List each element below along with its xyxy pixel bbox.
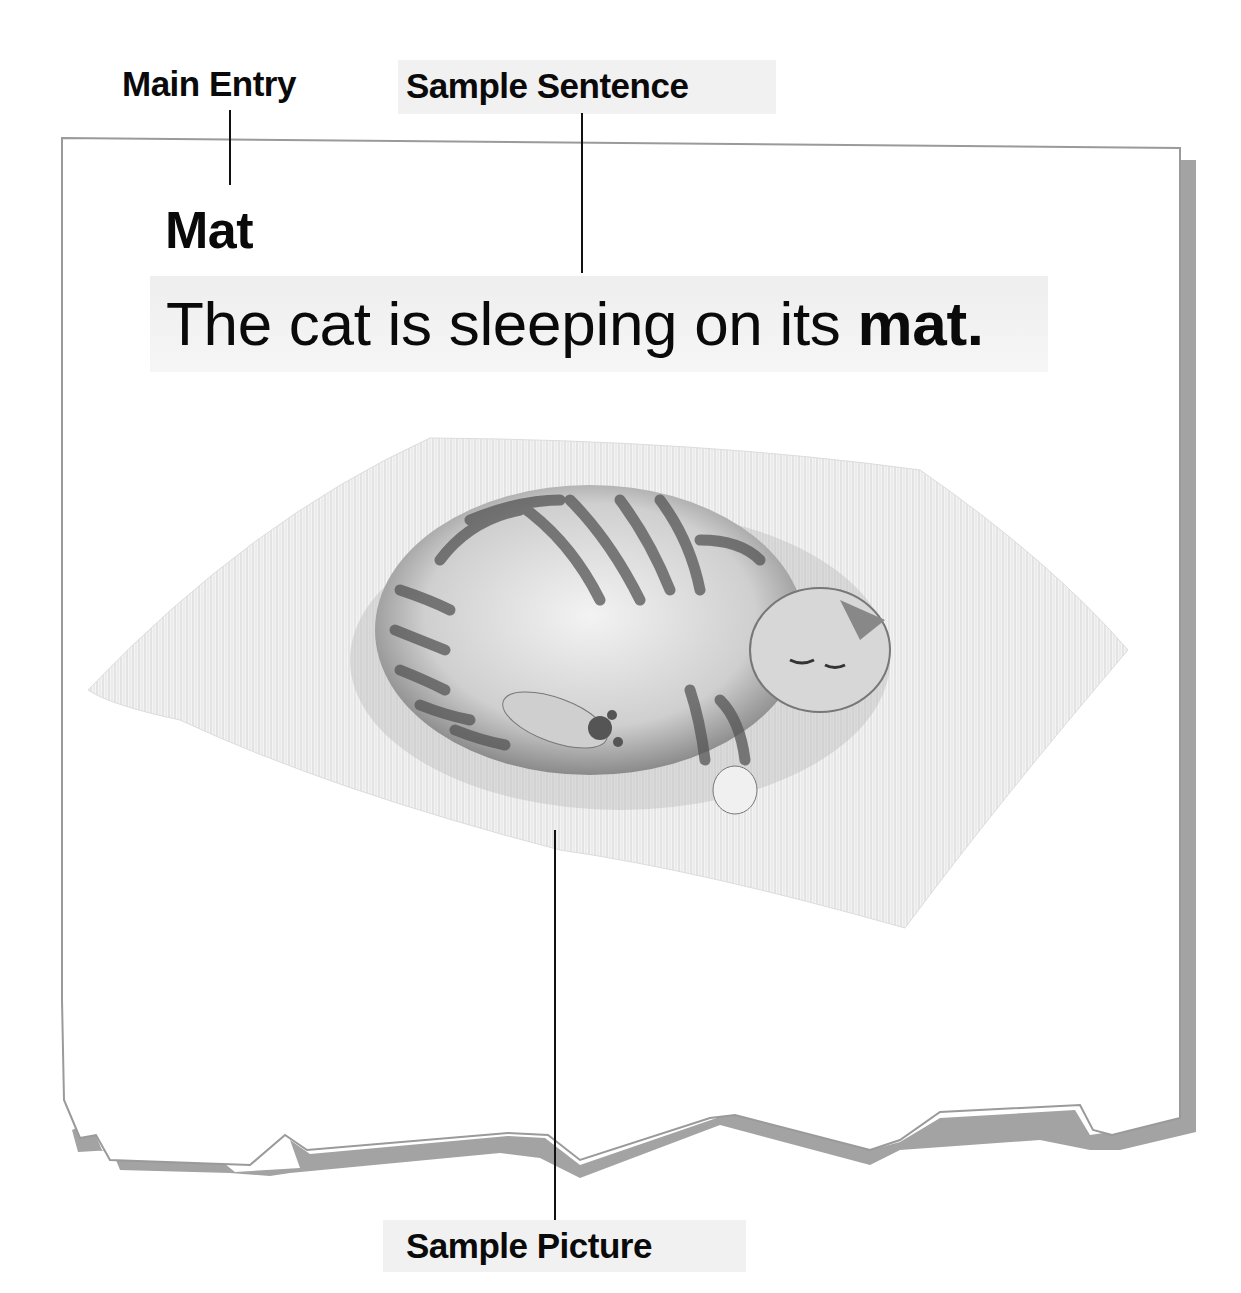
cat-head [750, 588, 890, 712]
cat-on-mat-illustration [0, 0, 1241, 1293]
sample-picture-label: Sample Picture [406, 1226, 652, 1266]
sample-picture-leader-line [554, 830, 556, 1220]
